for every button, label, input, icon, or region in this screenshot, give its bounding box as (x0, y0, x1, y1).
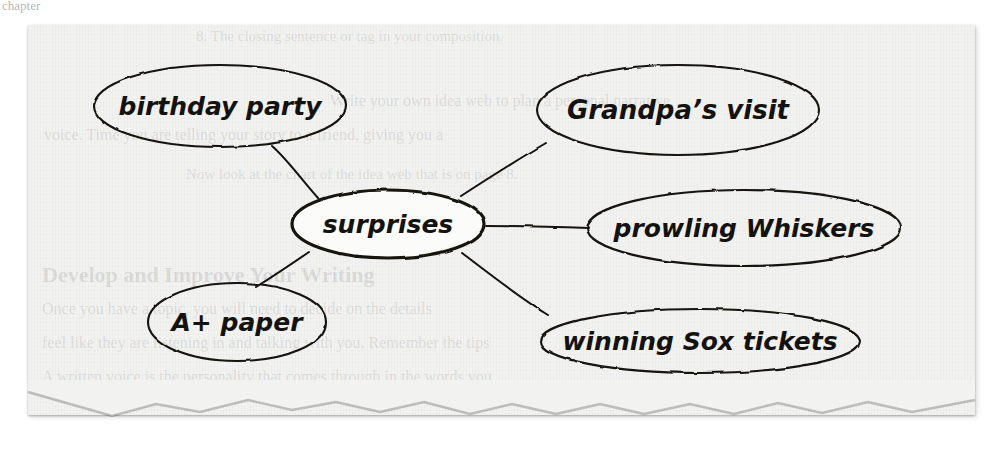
node-birthday-party[interactable]: birthday party (94, 65, 346, 147)
node-a-plus-paper[interactable]: A+ paper (148, 283, 326, 361)
idea-web-diagram: birthday partyGrandpa’s visitprowling Wh… (0, 0, 1003, 450)
screenshot-root: chapter 8. The closing sentence or tag i… (0, 0, 1003, 450)
node-winning-sox-tickets[interactable]: winning Sox tickets (540, 309, 860, 373)
node-label-winning-sox-tickets: winning Sox tickets (562, 327, 837, 356)
edge-center-birthday-party (272, 146, 318, 198)
node-label-birthday-party: birthday party (119, 92, 324, 121)
node-label-prowling-whiskers: prowling Whiskers (613, 214, 875, 243)
node-center[interactable]: surprises (292, 190, 484, 258)
torn-paper-bottom-edge (28, 380, 975, 416)
nodes-layer: birthday partyGrandpa’s visitprowling Wh… (94, 65, 901, 373)
node-prowling-whiskers[interactable]: prowling Whiskers (587, 190, 901, 266)
edge-center-grandpas-visit (461, 143, 546, 196)
edge-center-a-plus-paper (256, 252, 309, 287)
edge-center-winning-sox (462, 253, 548, 315)
node-label-a-plus-paper: A+ paper (170, 308, 305, 337)
node-label-grandpas-visit: Grandpa’s visit (567, 95, 791, 125)
node-label-center: surprises (323, 210, 454, 239)
edge-center-prowling-whiskers (486, 226, 589, 228)
node-grandpas-visit[interactable]: Grandpa’s visit (537, 65, 819, 155)
